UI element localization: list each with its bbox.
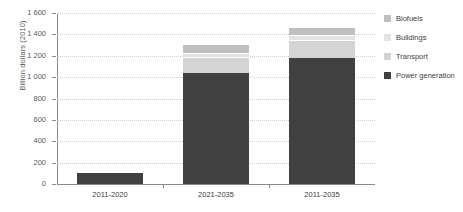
y-tick-label: 600 [0,115,46,124]
legend-label: Transport [396,52,428,61]
legend-swatch-icon [384,53,391,60]
legend-label: Buildings [396,33,426,42]
y-tick-mark [52,13,56,14]
legend-item: Power generation [384,66,455,85]
bar-stack [183,13,249,184]
legend-item: Buildings [384,28,455,47]
y-tick-mark [52,120,56,121]
x-axis-line [57,184,375,185]
legend-label: Power generation [396,71,455,80]
x-category-label: 2011-2035 [269,190,375,199]
y-tick-label: 400 [0,136,46,145]
bar-segment-biofuels [289,27,355,35]
legend-swatch-icon [384,72,391,79]
bar-segment-transport [289,40,355,58]
legend-item: Biofuels [384,9,455,28]
y-tick-mark [52,77,56,78]
y-tick-mark [52,34,56,35]
bar-segment-power-generation [183,73,249,184]
x-category-label: 2011-2020 [57,190,163,199]
legend: BiofuelsBuildingsTransportPower generati… [384,9,455,85]
bar-segment-buildings [289,35,355,39]
bar-segment-power-generation [289,58,355,184]
y-tick-label: 0 [0,179,46,188]
y-tick-label: 1 200 [0,51,46,60]
bar-segment-buildings [183,53,249,57]
bar-stack [77,13,143,184]
bar-segment-transport [77,172,143,174]
y-tick-mark [52,163,56,164]
y-tick-label: 1 000 [0,72,46,81]
y-tick-mark [52,99,56,100]
plot-area [57,13,375,184]
y-tick-label: 1 600 [0,8,46,17]
bar-segment-power-generation [77,173,143,184]
legend-item: Transport [384,47,455,66]
y-tick-mark [52,184,56,185]
x-tick-mark [163,184,164,188]
legend-label: Biofuels [396,14,423,23]
y-tick-label: 1 400 [0,29,46,38]
y-tick-mark [52,56,56,57]
y-tick-label: 800 [0,94,46,103]
bar-stack [289,13,355,184]
legend-swatch-icon [384,34,391,41]
bar-segment-biofuels [183,44,249,53]
y-tick-mark [52,141,56,142]
x-tick-mark [269,184,270,188]
x-category-label: 2021-2035 [163,190,269,199]
y-tick-label: 200 [0,158,46,167]
bar-segment-transport [183,57,249,73]
legend-swatch-icon [384,15,391,22]
bar-chart: Billion dollars (2010) 02004006008001 00… [0,0,463,212]
